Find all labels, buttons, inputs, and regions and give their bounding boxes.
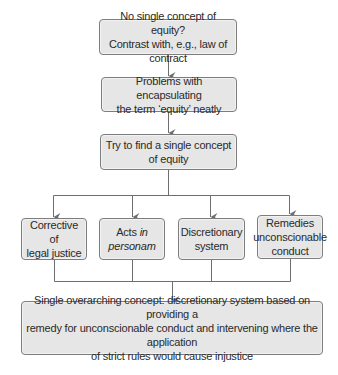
node-text-line: legal justice [25, 246, 83, 260]
node-text-line: Discretionary [181, 225, 243, 239]
node-discretionary-system: Discretionary system [178, 218, 245, 260]
node-text-line: unconscionable [253, 230, 327, 244]
node-single-overarching-concept: Single overarching concept: discretionar… [21, 301, 323, 355]
node-no-single-concept: No single concept of equity? Contrast wi… [99, 19, 237, 55]
node-acts-in-personam: Acts in personam [99, 218, 165, 260]
node-corrective-legal-justice: Corrective of legal justice [21, 218, 87, 260]
node-problems-encapsulating: Problems with encapsulating the term ‘eq… [101, 77, 237, 112]
node-text-line: system [181, 239, 243, 253]
node-text-line: No single concept of equity? [103, 9, 233, 37]
node-text-line: Try to find a single concept [106, 138, 231, 152]
node-text-line: conduct [253, 244, 327, 258]
node-text-line: Corrective of [25, 218, 83, 246]
node-text-line: the term ‘equity’ neatly [105, 102, 233, 116]
node-text-line: Single overarching concept: discretionar… [25, 293, 319, 321]
node-text-line: Remedies [253, 216, 327, 230]
node-remedies-unconscionable-conduct: Remedies unconscionable conduct [257, 215, 323, 259]
node-text-line: of equity [106, 152, 231, 166]
node-text-line: of strict rules would cause injustice [25, 349, 319, 363]
node-text-line: Acts in [108, 225, 155, 239]
node-text-line: Contrast with, e.g., law of contract [103, 37, 233, 65]
node-text-line: personam [108, 239, 155, 253]
node-text-line: Problems with encapsulating [105, 74, 233, 102]
node-text-line: remedy for unconscionable conduct and in… [25, 321, 319, 349]
node-find-single-concept: Try to find a single concept of equity [100, 134, 237, 170]
